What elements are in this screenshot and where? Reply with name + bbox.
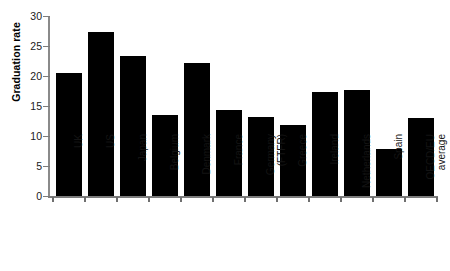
x-axis-tick-label: Ireland [330, 134, 341, 200]
y-axis-tick-label: 20 [20, 71, 42, 81]
bar-chart: Graduation rate 051015202530 UKUSJapanBe… [0, 0, 450, 271]
x-axis-tick-label: France [234, 134, 245, 200]
x-axis-tick-label: Greece [298, 134, 309, 200]
x-axis-tick-label: Japan [138, 134, 149, 200]
y-axis-tick-label: 0 [20, 191, 42, 201]
x-axis-tick-label: Netherlands [362, 134, 373, 200]
x-axis-tick-label: Germany (FTFR) [266, 134, 287, 200]
y-axis-tick [43, 16, 50, 18]
x-axis-tick-labels: UKUSJapanBelgiumDenmarkFranceGermany (FT… [48, 200, 448, 271]
y-axis-tick-labels: 051015202530 [18, 16, 42, 197]
y-axis-tick-label: 25 [20, 41, 42, 51]
x-axis-tick-label: Spain [394, 134, 405, 200]
y-axis-tick-label: 30 [20, 11, 42, 21]
x-axis-tick-label: Denmark [202, 134, 213, 200]
x-axis-tick-label: US [106, 134, 117, 200]
x-axis-tick-label: OECD/EU average [426, 134, 447, 200]
y-axis-tick [43, 136, 50, 138]
y-axis-tick [43, 76, 50, 78]
x-axis-tick-label: Belgium [170, 134, 181, 200]
y-axis-tick-label: 10 [20, 131, 42, 141]
y-axis-tick-label: 5 [20, 161, 42, 171]
y-axis-tick-label: 15 [20, 101, 42, 111]
y-axis-tick [43, 46, 50, 48]
y-axis-tick [43, 166, 50, 168]
y-axis-tick [43, 106, 50, 108]
x-axis-tick-label: UK [74, 134, 85, 200]
y-axis-tick [43, 196, 50, 198]
